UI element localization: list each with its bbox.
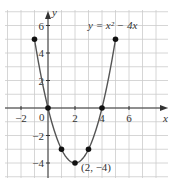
- data-point: [45, 105, 51, 111]
- x-tick-label: −2: [15, 112, 27, 124]
- x-axis-label: x: [162, 112, 168, 124]
- y-tick-label: 4: [39, 47, 45, 59]
- y-axis-arrow-icon: [45, 11, 51, 19]
- data-point: [113, 36, 119, 42]
- vertex-annotation: (2, −4): [81, 161, 111, 174]
- parabola-chart: −2246642−2−4 y = x² − 4x (2, −4) x y 0: [0, 0, 171, 182]
- data-point: [32, 36, 38, 42]
- data-point: [72, 160, 78, 166]
- y-axis-label: y: [51, 6, 57, 18]
- data-point: [59, 146, 65, 152]
- x-tick-label: 6: [126, 112, 132, 124]
- y-tick-label: −2: [32, 130, 44, 142]
- y-tick-label: 6: [39, 20, 45, 32]
- chart-canvas: −2246642−2−4 y = x² − 4x (2, −4) x y 0: [0, 0, 171, 182]
- data-point: [86, 146, 92, 152]
- origin-label: 0: [39, 111, 45, 123]
- x-tick-label: 2: [72, 112, 78, 124]
- equation-label: y = x² − 4x: [87, 19, 137, 31]
- y-tick-label: −4: [32, 157, 44, 169]
- x-axis-arrow-icon: [160, 105, 168, 111]
- data-point: [99, 105, 105, 111]
